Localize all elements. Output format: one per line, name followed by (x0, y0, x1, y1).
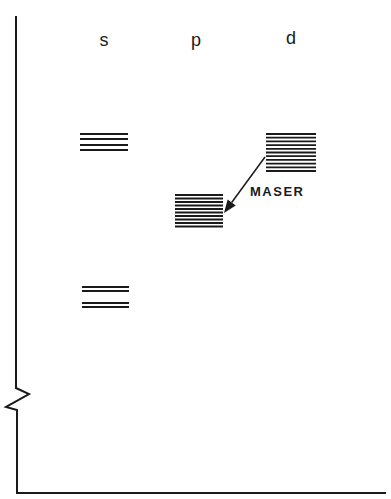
s-lower (82, 287, 129, 307)
vertical-axis-with-break (6, 16, 29, 493)
d-level (266, 134, 316, 171)
column-label-p: p (191, 30, 201, 51)
maser-label: MASER (250, 184, 304, 199)
p-level (175, 195, 223, 227)
s-upper (80, 134, 128, 150)
vertical-axis (6, 16, 29, 493)
energy-level-diagram (0, 0, 391, 499)
column-label-s: s (100, 30, 109, 51)
column-label-d: d (286, 28, 296, 49)
arrow-head-icon (224, 200, 236, 213)
energy-levels (80, 134, 316, 307)
